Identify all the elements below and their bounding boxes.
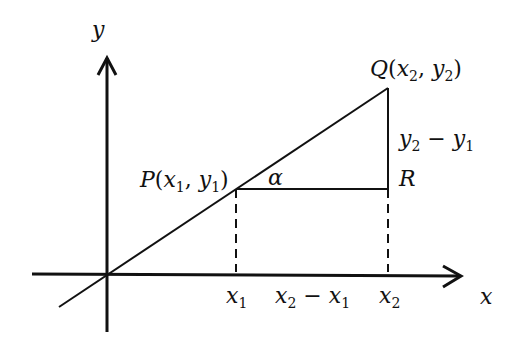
rise-label: y2 − y1: [398, 126, 474, 154]
x-axis: [32, 274, 460, 276]
run-label: x2 − x1: [275, 283, 350, 311]
point-r-label: R: [398, 166, 416, 191]
point-q-label: Q(x2, y2): [370, 56, 462, 84]
x2-tick-label: x2: [379, 283, 400, 311]
angle-alpha-label: α: [268, 165, 283, 190]
y-axis-label: y: [91, 17, 105, 42]
slope-diagram: y x Q(x2, y2) P(x1, y1) α R y2 − y1 x1 x…: [0, 0, 521, 350]
point-p-label: P(x1, y1): [139, 167, 229, 195]
x-axis-label: x: [480, 284, 493, 309]
x1-tick-label: x1: [226, 283, 247, 311]
